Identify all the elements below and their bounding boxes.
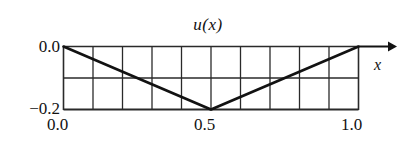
x-axis-tick-label-mid: 0.5 bbox=[194, 116, 215, 133]
x-axis-tick-label-left: 0.0 bbox=[47, 116, 68, 133]
page-title: u(x) bbox=[0, 16, 416, 33]
y-axis-tick-label-top: 0.0 bbox=[39, 38, 60, 55]
figure-container: u(x) 0.0 −0.2 0.0 0.5 1.0 x bbox=[0, 0, 416, 163]
x-axis-tick-label-right: 1.0 bbox=[341, 116, 362, 133]
x-axis-arrow bbox=[359, 42, 398, 52]
x-axis-label: x bbox=[374, 57, 381, 73]
